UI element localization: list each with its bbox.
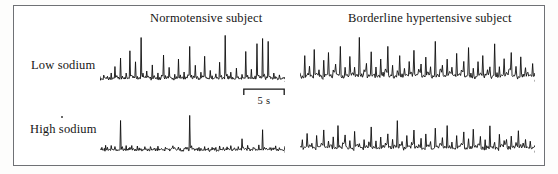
column-title-borderline-hypertensive: Borderline hypertensive subject <box>348 11 512 26</box>
column-title-normotensive: Normotensive subject <box>150 11 262 26</box>
trace-path <box>100 35 285 81</box>
row-label-low-sodium: Low sodium <box>31 58 95 73</box>
scale-bar-label: 5 s <box>243 95 285 106</box>
trace-path <box>100 115 285 152</box>
trace-normotensive-low-sodium <box>100 28 285 83</box>
figure-root: Normotensive subject Borderline hyperten… <box>0 0 558 174</box>
row-label-high-sodium: High sodium <box>30 122 97 137</box>
scan-artifact-speck <box>61 116 63 118</box>
trace-normotensive-high-sodium <box>100 104 285 154</box>
trace-borderline-hypertensive-low-sodium <box>300 28 535 83</box>
trace-path <box>300 121 535 152</box>
trace-path <box>300 37 535 81</box>
trace-borderline-hypertensive-high-sodium <box>300 104 535 154</box>
